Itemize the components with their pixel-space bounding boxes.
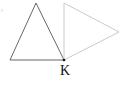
right-triangle <box>64 3 119 60</box>
diagram-canvas: K <box>0 0 137 86</box>
point-k-label: K <box>60 63 70 78</box>
point-k-dot <box>63 59 66 62</box>
left-triangle <box>10 3 64 60</box>
